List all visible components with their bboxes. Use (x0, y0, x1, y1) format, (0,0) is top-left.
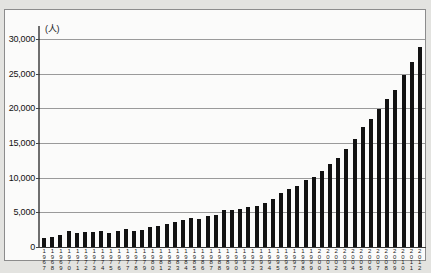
x-axis-tick-label: 1991 (240, 249, 248, 271)
x-axis-tick-digit: 9 (393, 266, 396, 272)
bar (83, 232, 87, 247)
chart-frame: (人) 05,00010,00015,00020,00025,00030,000… (4, 9, 426, 261)
bar (214, 215, 218, 247)
x-axis-tick-label: 1996 (282, 249, 290, 271)
bar-slot (163, 32, 171, 247)
bar (238, 209, 242, 247)
y-axis-tick-mark (36, 247, 40, 248)
x-axis-tick-digit: 4 (101, 266, 104, 272)
bar-slot (367, 32, 375, 247)
x-axis-tick-digit: 0 (401, 266, 404, 272)
x-axis-tick-label: 1985 (190, 249, 198, 271)
bar-slot (187, 32, 195, 247)
bar-slot (212, 32, 220, 247)
bar-slot (138, 32, 146, 247)
bar (42, 238, 46, 247)
bar (336, 158, 340, 247)
x-axis-tick-digit: 5 (109, 266, 112, 272)
x-axis-tick-digit: 9 (143, 266, 146, 272)
x-axis-tick-label: 1979 (140, 249, 148, 271)
x-axis-tick-label: 1989 (224, 249, 232, 271)
x-axis-tick-labels: 1967196819691970197119721973197419751976… (39, 249, 425, 271)
x-axis-tick-digit: 5 (193, 266, 196, 272)
bar (246, 207, 250, 247)
x-axis-tick-label: 2001 (324, 249, 332, 271)
bar (107, 233, 111, 247)
bar (173, 222, 177, 247)
x-axis-tick-label: 1998 (299, 249, 307, 271)
bar (385, 99, 389, 247)
bar-slot (408, 32, 416, 247)
x-axis-tick-digit: 4 (184, 266, 187, 272)
bar (312, 177, 316, 247)
bar-slot (400, 32, 408, 247)
x-axis-tick-label: 1990 (232, 249, 240, 271)
bar (75, 233, 79, 247)
bar-slot (269, 32, 277, 247)
x-axis-tick-digit: 7 (43, 266, 46, 272)
x-axis-tick-label: 1969 (57, 249, 65, 271)
bar-slot (65, 32, 73, 247)
bar-slot (383, 32, 391, 247)
x-axis-tick-label: 2012 (415, 249, 423, 271)
bar (361, 127, 365, 247)
bar-slot (318, 32, 326, 247)
bar-slot (203, 32, 211, 247)
bar-slot (416, 32, 424, 247)
bar (50, 237, 54, 247)
x-axis-tick-digit: 2 (168, 266, 171, 272)
x-axis-tick-digit: 7 (126, 266, 129, 272)
bar-slot (228, 32, 236, 247)
x-axis-tick-label: 1971 (73, 249, 81, 271)
x-axis-tick-digit: 9 (310, 266, 313, 272)
bar-slot (105, 32, 113, 247)
x-axis-tick-digit: 1 (410, 266, 413, 272)
x-axis-tick-label: 1972 (82, 249, 90, 271)
x-axis-tick-digit: 1 (159, 266, 162, 272)
bar-slot (56, 32, 64, 247)
x-axis-tick-digit: 8 (134, 266, 137, 272)
bar-slot (391, 32, 399, 247)
bar-slot (81, 32, 89, 247)
bar (255, 206, 259, 247)
x-axis-tick-label: 1977 (123, 249, 131, 271)
x-axis-tick-label: 1984 (182, 249, 190, 271)
x-axis-tick-label: 2008 (382, 249, 390, 271)
bar-slot (122, 32, 130, 247)
bar-slot (261, 32, 269, 247)
x-axis-tick-label: 1982 (165, 249, 173, 271)
x-axis-tick-label: 2003 (340, 249, 348, 271)
x-axis-tick-digit: 3 (259, 266, 262, 272)
bar (67, 231, 71, 247)
bar (156, 226, 160, 247)
bar (91, 232, 95, 247)
x-axis-tick-label: 1999 (307, 249, 315, 271)
x-axis-tick-label: 2005 (357, 249, 365, 271)
bar (197, 219, 201, 247)
x-axis-tick-label: 1978 (132, 249, 140, 271)
bar (181, 220, 185, 247)
bar-slot (236, 32, 244, 247)
x-axis-tick-digit: 1 (243, 266, 246, 272)
y-axis-tick-label: 0 (30, 242, 35, 252)
bar (148, 227, 152, 247)
x-axis-tick-digit: 2 (251, 266, 254, 272)
bar (140, 230, 144, 247)
bar (393, 90, 397, 247)
x-axis-tick-label: 2007 (374, 249, 382, 271)
x-axis-tick-label: 1987 (207, 249, 215, 271)
x-axis-tick-digit: 0 (151, 266, 154, 272)
bar (189, 218, 193, 247)
plot-area: 05,00010,00015,00020,00025,00030,000 (39, 32, 425, 247)
bar (410, 62, 414, 247)
y-axis-tick-label: 20,000 (9, 103, 35, 113)
bars-group (39, 32, 425, 247)
x-axis-tick-digit: 6 (118, 266, 121, 272)
bar (304, 180, 308, 247)
bar-slot (277, 32, 285, 247)
bar-slot (171, 32, 179, 247)
bar (132, 231, 136, 247)
x-axis-tick-label: 1988 (215, 249, 223, 271)
x-axis-tick-label: 1973 (90, 249, 98, 271)
chart-page: (人) 05,00010,00015,00020,00025,00030,000… (0, 0, 431, 273)
